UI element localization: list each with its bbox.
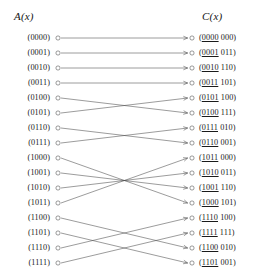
target-label-prefix-2: 0010 <box>202 63 219 72</box>
source-node-5 <box>56 111 60 115</box>
target-label-close-9: ) <box>233 168 236 177</box>
source-node-7 <box>56 141 60 145</box>
target-node-14 <box>190 246 194 250</box>
target-label-14: (1100 010) <box>199 243 236 252</box>
target-label-close-13: ) <box>232 228 235 237</box>
target-label-prefix-14: 1100 <box>202 243 218 252</box>
target-node-12 <box>190 216 194 220</box>
target-label-suffix-14: 010 <box>218 243 233 252</box>
target-label-prefix-9: 1010 <box>202 168 219 177</box>
source-node-11 <box>56 201 60 205</box>
target-node-11 <box>190 201 194 205</box>
target-label-1: (0001 011) <box>199 48 236 57</box>
target-node-8 <box>190 156 194 160</box>
source-node-10 <box>56 186 60 190</box>
target-label-close-6: ) <box>233 123 236 132</box>
source-label-15: (1111) <box>6 258 50 267</box>
target-label-suffix-12: 100 <box>218 213 233 222</box>
target-label-close-10: ) <box>233 183 236 192</box>
target-label-11: (1000 101) <box>199 198 236 207</box>
target-label-suffix-11: 101 <box>219 198 234 207</box>
target-label-close-4: ) <box>233 93 236 102</box>
target-label-close-11: ) <box>233 198 236 207</box>
source-node-13 <box>56 231 60 235</box>
target-label-prefix-15: 1101 <box>202 258 218 267</box>
source-label-7: (0111) <box>6 138 50 147</box>
target-label-close-2: ) <box>233 63 236 72</box>
source-node-2 <box>56 66 60 70</box>
target-label-15: (1101 001) <box>199 258 236 267</box>
target-label-3: (0011 101) <box>199 78 236 87</box>
source-label-10: (1010) <box>6 183 50 192</box>
target-label-prefix-10: 1001 <box>202 183 219 192</box>
target-node-13 <box>190 231 194 235</box>
source-label-6: (0110) <box>6 123 50 132</box>
target-label-suffix-4: 100 <box>219 93 234 102</box>
target-label-suffix-15: 001 <box>218 258 233 267</box>
target-label-5: (0100 111) <box>199 108 236 117</box>
target-label-12: (1110 100) <box>199 213 236 222</box>
target-label-suffix-2: 110 <box>219 63 233 72</box>
target-label-close-7: ) <box>233 138 236 147</box>
target-label-prefix-6: 0111 <box>202 123 218 132</box>
target-label-6: (0111 010) <box>199 123 236 132</box>
permutation-diagram: A(x) C(x) (0000)(0001)(0010)(0011)(0100)… <box>0 0 255 280</box>
target-node-4 <box>190 96 194 100</box>
target-label-13: (1111 111) <box>199 228 235 237</box>
target-label-suffix-7: 001 <box>218 138 233 147</box>
source-node-3 <box>56 81 60 85</box>
target-label-prefix-5: 0100 <box>202 108 219 117</box>
edge-layer <box>61 38 188 263</box>
target-label-suffix-10: 110 <box>219 183 233 192</box>
target-label-prefix-13: 1111 <box>202 228 218 237</box>
target-label-prefix-0: 0000 <box>202 33 219 42</box>
target-label-9: (1010 011) <box>199 168 236 177</box>
source-node-1 <box>56 51 60 55</box>
source-label-4: (0100) <box>6 93 50 102</box>
target-label-suffix-13: 111 <box>218 228 232 237</box>
target-node-9 <box>190 171 194 175</box>
source-label-2: (0010) <box>6 63 50 72</box>
target-node-7 <box>190 141 194 145</box>
source-node-12 <box>56 216 60 220</box>
target-label-prefix-12: 1110 <box>202 213 218 222</box>
target-label-8: (1011 000) <box>199 153 236 162</box>
source-label-13: (1101) <box>6 228 50 237</box>
target-label-suffix-1: 011 <box>219 48 233 57</box>
target-label-suffix-6: 010 <box>218 123 233 132</box>
target-node-15 <box>190 261 194 265</box>
source-label-0: (0000) <box>6 33 50 42</box>
target-label-close-15: ) <box>233 258 236 267</box>
target-label-2: (0010 110) <box>199 63 236 72</box>
source-label-3: (0011) <box>6 78 50 87</box>
target-node-0 <box>190 36 194 40</box>
target-label-suffix-8: 000 <box>218 153 233 162</box>
target-label-prefix-1: 0001 <box>202 48 219 57</box>
target-label-close-1: ) <box>233 48 236 57</box>
source-label-14: (1110) <box>6 243 50 252</box>
target-node-3 <box>190 81 194 85</box>
target-label-prefix-11: 1000 <box>202 198 219 207</box>
target-node-5 <box>190 111 194 115</box>
source-label-8: (1000) <box>6 153 50 162</box>
source-label-9: (1001) <box>6 168 50 177</box>
source-label-12: (1100) <box>6 213 50 222</box>
target-label-close-8: ) <box>233 153 236 162</box>
source-node-6 <box>56 126 60 130</box>
target-label-close-0: ) <box>233 33 236 42</box>
source-label-11: (1011) <box>6 198 50 207</box>
source-node-9 <box>56 171 60 175</box>
target-node-10 <box>190 186 194 190</box>
source-label-5: (0101) <box>6 108 50 117</box>
target-node-6 <box>190 126 194 130</box>
target-label-suffix-5: 111 <box>219 108 233 117</box>
source-label-1: (0001) <box>6 48 50 57</box>
source-node-0 <box>56 36 60 40</box>
target-label-close-12: ) <box>233 213 236 222</box>
target-label-close-3: ) <box>233 78 236 87</box>
target-label-close-14: ) <box>233 243 236 252</box>
source-node-4 <box>56 96 60 100</box>
target-label-suffix-3: 101 <box>218 78 233 87</box>
source-node-14 <box>56 246 60 250</box>
target-label-prefix-7: 0110 <box>202 138 218 147</box>
